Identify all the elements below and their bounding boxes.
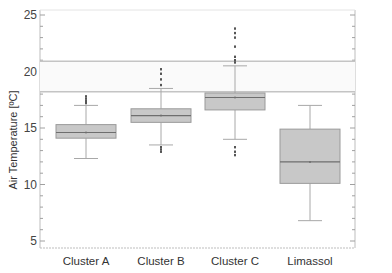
outlier-marker <box>234 151 236 153</box>
outlier-marker <box>234 32 236 34</box>
outlier-marker <box>234 27 236 29</box>
outlier-marker <box>234 154 236 156</box>
iqr-box <box>205 93 265 110</box>
y-tick-label: 15 <box>24 121 38 135</box>
mean-marker <box>85 132 87 134</box>
outlier-marker <box>160 78 162 80</box>
outlier-marker <box>160 148 162 150</box>
outlier-marker <box>160 84 162 86</box>
x-category-label: Cluster B <box>137 255 185 267</box>
box-series <box>56 27 340 220</box>
outlier-marker <box>160 68 162 70</box>
box-limassol <box>280 105 340 220</box>
outlier-marker <box>234 61 236 63</box>
mean-marker <box>309 161 311 163</box>
mean-marker <box>160 115 162 117</box>
outlier-marker <box>160 73 162 75</box>
boxplot-chart: 510152025Cluster ACluster BCluster CLima… <box>0 0 392 273</box>
outlier-marker <box>160 146 162 148</box>
iqr-box <box>280 129 340 183</box>
outlier-marker <box>234 56 236 58</box>
outlier-marker <box>234 146 236 148</box>
y-tick-label: 20 <box>24 65 38 79</box>
reference-band <box>40 61 355 92</box>
y-tick-label: 25 <box>24 8 38 22</box>
iqr-box <box>56 125 116 139</box>
outlier-marker <box>234 59 236 61</box>
outlier-marker <box>85 97 87 99</box>
band-fill <box>40 61 355 92</box>
outlier-marker <box>85 100 87 102</box>
outlier-marker <box>85 95 87 97</box>
x-category-label: Cluster C <box>211 255 259 267</box>
outlier-marker <box>85 102 87 104</box>
outlier-marker <box>160 151 162 153</box>
y-tick-label: 5 <box>30 234 37 248</box>
mean-marker <box>234 96 236 98</box>
outlier-marker <box>234 36 236 38</box>
y-tick-label: 10 <box>24 178 38 192</box>
x-category-label: Limassol <box>287 255 332 267</box>
outlier-marker <box>234 45 236 47</box>
y-axis-title: Air Temperature [ºC] <box>7 90 19 189</box>
x-category-label: Cluster A <box>63 255 110 267</box>
box-cluster-a <box>56 95 116 158</box>
